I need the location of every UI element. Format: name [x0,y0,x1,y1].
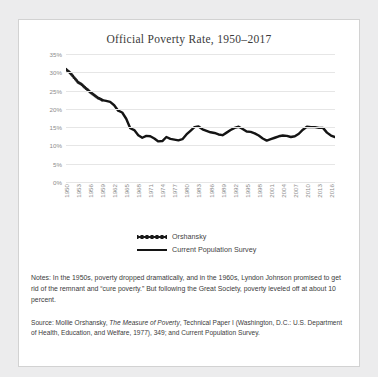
x-axis-tick-label: 1965 [123,184,130,198]
y-axis-tick-label: 10% [50,142,66,149]
x-axis-tick-label: 2016 [328,184,335,198]
data-point [71,74,74,77]
x-axis-tick-label: 1974 [159,184,166,198]
source-citation: Source: Mollie Orshansky, The Measure of… [31,318,347,339]
data-point [83,86,86,89]
plot-canvas: 0%5%10%15%20%25%30%35% [66,54,335,182]
x-axis-tick-label: 2001 [268,184,275,198]
gridline [66,164,335,165]
series-line [102,100,335,141]
x-axis-tick-label: 1983 [195,184,202,198]
chart-card: Official Poverty Rate, 1950–2017 0%5%10%… [18,19,360,367]
notes-text: Notes: In the 1950s, poverty dropped dra… [31,272,347,306]
x-axis-tick-label: 1968 [135,184,142,198]
gridline [66,145,335,146]
x-axis-tick-label: 1992 [232,184,239,198]
source-title-italic: The Measure of Poverty [109,319,179,326]
page-title: Official Poverty Rate, 1950–2017 [19,33,359,45]
x-axis-tick-label: 1956 [87,184,94,198]
y-axis-tick-label: 20% [50,105,66,112]
solid-line-swatch-icon [137,246,167,254]
source-prefix: Source: Mollie Orshansky, [31,319,109,326]
x-axis-tick-label: 1998 [256,184,263,198]
y-axis-tick-label: 25% [50,87,66,94]
x-axis-tick-label: 2013 [316,184,323,198]
gridline [66,127,335,128]
x-axis-tick-label: 1986 [208,184,215,198]
dotted-line-swatch-icon [137,233,167,241]
x-axis-tick-label: 1995 [244,184,251,198]
x-axis-labels: 1950195319561959196219651968197119741977… [66,184,335,218]
x-axis-tick-label: 1989 [220,184,227,198]
data-point [79,82,82,85]
x-axis-tick-label: 1971 [147,184,154,198]
legend-label: Orshansky [172,232,206,241]
x-axis-tick-label: 2007 [292,184,299,198]
x-axis-tick-label: 1977 [171,184,178,198]
plot-area: 0%5%10%15%20%25%30%35% 19501953195619591… [19,54,359,204]
y-axis-tick-label: 30% [50,69,66,76]
data-point [91,92,94,95]
x-axis-tick-label: 1959 [99,184,106,198]
data-point [95,95,98,98]
x-axis-tick-label: 1950 [63,184,70,198]
x-axis-tick-label: 2004 [280,184,287,198]
x-axis-tick-label: 1980 [183,184,190,198]
legend-label: Current Population Survey [172,245,256,254]
x-axis-tick-label: 1953 [75,184,82,198]
gridline [66,109,335,110]
gridline [66,91,335,92]
gridline [66,54,335,55]
x-axis-tick-label: 2010 [304,184,311,198]
legend-item-cps: Current Population Survey [137,243,359,256]
gridline [66,72,335,73]
legend-item-orshansky: Orshansky [137,230,359,243]
y-axis-tick-label: 5% [53,160,66,167]
y-axis-tick-label: 35% [50,51,66,58]
data-point [75,79,78,82]
legend: Orshansky Current Population Survey [19,230,359,256]
x-axis-tick-label: 1962 [111,184,118,198]
y-axis-tick-label: 15% [50,124,66,131]
